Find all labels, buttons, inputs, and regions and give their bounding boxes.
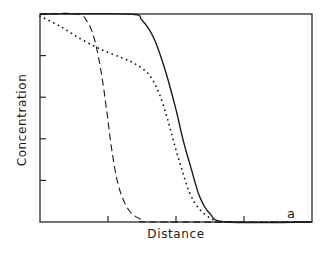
- solid-curve: [40, 14, 312, 223]
- chart: Distance Concentration a: [0, 0, 327, 253]
- panel-label: a: [287, 206, 295, 221]
- axis-ticks: [40, 56, 244, 222]
- dashed-curve: [40, 13, 312, 222]
- x-axis-label: Distance: [147, 227, 204, 241]
- y-axis-label: Concentration: [15, 74, 29, 167]
- dotted-curve: [40, 16, 312, 222]
- plot-frame: [40, 14, 312, 222]
- curves: [40, 13, 312, 222]
